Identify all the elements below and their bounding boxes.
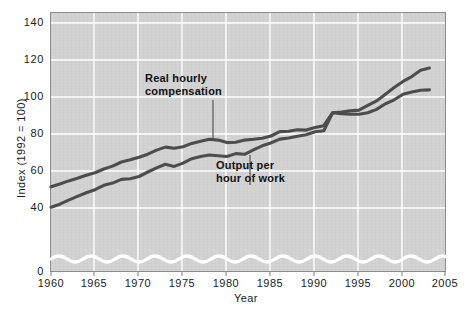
y-tick-label-120: 120: [8, 54, 44, 65]
x-tick-label-1985: 1985: [247, 278, 293, 289]
x-tick-label-1970: 1970: [115, 278, 161, 289]
annotation-real-hourly-compensation: Real hourly compensation: [145, 72, 255, 98]
y-tick-label-0: 0: [8, 266, 44, 277]
x-tick-label-1965: 1965: [71, 278, 117, 289]
chart-canvas: [0, 0, 464, 310]
gridlines-vertical: [94, 13, 402, 271]
x-axis-tick-marks: [51, 272, 445, 276]
y-axis-title: Index (1992 = 100): [15, 78, 27, 218]
x-tick-label-1980: 1980: [203, 278, 249, 289]
annotation-compensation-line-1: Real hourly: [145, 72, 255, 85]
x-tick-label-1995: 1995: [335, 278, 381, 289]
axis-break-wave: [51, 256, 451, 262]
x-tick-label-2000: 2000: [379, 278, 425, 289]
x-axis-title: Year: [206, 292, 286, 304]
x-tick-label-1960: 1960: [28, 278, 74, 289]
x-tick-label-1975: 1975: [159, 278, 205, 289]
annotation-output-per-hour: Output per hour of work: [216, 159, 326, 185]
y-tick-label-140: 140: [8, 17, 44, 28]
annotation-compensation-line-2: compensation: [145, 85, 255, 98]
annotation-output-line-2: hour of work: [216, 172, 326, 185]
annotation-output-line-1: Output per: [216, 159, 326, 172]
x-tick-label-1990: 1990: [291, 278, 337, 289]
chart-figure: 140 120 100 80 60 40 0 1960 1965 1970 19…: [0, 0, 464, 310]
x-tick-label-2005: 2005: [422, 278, 464, 289]
